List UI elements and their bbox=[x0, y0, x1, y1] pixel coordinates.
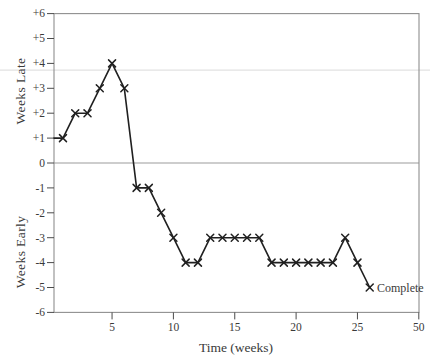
svg-text:+4: +4 bbox=[33, 57, 45, 69]
svg-text:-3: -3 bbox=[35, 232, 45, 244]
gridlines bbox=[0, 70, 430, 163]
svg-text:-1: -1 bbox=[35, 182, 45, 194]
svg-text:-6: -6 bbox=[35, 306, 45, 318]
y-axis-label-weeks-early: Weeks Early bbox=[13, 216, 29, 289]
svg-text:0: 0 bbox=[39, 157, 45, 169]
svg-text:+3: +3 bbox=[33, 82, 45, 94]
data-series bbox=[54, 63, 370, 287]
x-axis-label: Time (weeks) bbox=[199, 340, 273, 356]
svg-text:+5: +5 bbox=[33, 32, 45, 44]
svg-text:+1: +1 bbox=[33, 132, 45, 144]
y-axis-ticks: +6+5+4+3+2+10-1-2-3-4-5-6 bbox=[33, 7, 54, 318]
svg-text:50: 50 bbox=[413, 321, 425, 333]
chart-canvas: +6+5+4+3+2+10-1-2-3-4-5-651015202550 bbox=[0, 0, 430, 363]
svg-text:-2: -2 bbox=[35, 207, 45, 219]
data-markers bbox=[59, 60, 373, 291]
svg-text:15: 15 bbox=[229, 321, 241, 333]
svg-text:20: 20 bbox=[290, 321, 302, 333]
svg-text:10: 10 bbox=[168, 321, 180, 333]
schedule-variance-chart: +6+5+4+3+2+10-1-2-3-4-5-651015202550 Wee… bbox=[0, 0, 430, 363]
x-axis-ticks: 51015202550 bbox=[109, 312, 425, 333]
svg-text:+2: +2 bbox=[33, 107, 45, 119]
svg-text:25: 25 bbox=[352, 321, 364, 333]
svg-text:+6: +6 bbox=[33, 7, 45, 19]
svg-text:5: 5 bbox=[109, 321, 115, 333]
complete-annotation: Complete bbox=[377, 281, 424, 296]
y-axis-label-weeks-late: Weeks Late bbox=[13, 57, 29, 124]
svg-text:-4: -4 bbox=[35, 256, 45, 268]
svg-text:-5: -5 bbox=[35, 281, 45, 293]
